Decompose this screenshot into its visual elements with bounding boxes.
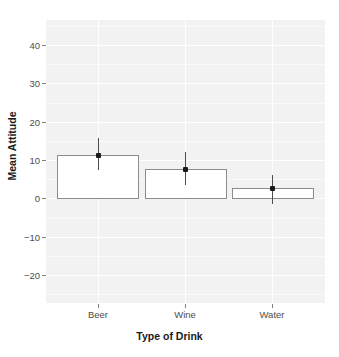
y-tick-label-40: 40 xyxy=(0,40,40,51)
x-axis-title: Type of Drink xyxy=(0,330,339,342)
y-tick-mark-neg10 xyxy=(42,237,46,238)
y-tick-mark-10 xyxy=(42,160,46,161)
y-tick-mark-40 xyxy=(42,45,46,46)
y-tick-mark-20 xyxy=(42,122,46,123)
x-tick-mark-wine xyxy=(185,304,186,308)
x-tick-label-beer: Beer xyxy=(58,309,138,320)
x-tick-mark-beer xyxy=(98,304,99,308)
data-point-beer xyxy=(96,153,101,158)
y-axis-title: Mean Attitude xyxy=(6,86,18,206)
x-tick-label-wine: Wine xyxy=(145,309,225,320)
y-tick-label-neg10: −10 xyxy=(0,232,40,243)
gridline-vertical-water xyxy=(272,20,273,303)
plot-panel xyxy=(46,20,325,303)
y-tick-mark-neg20 xyxy=(42,275,46,276)
x-tick-mark-water xyxy=(272,304,273,308)
bar-chart: 40 30 20 10 0 −10 −20 Beer Wine Water Ty… xyxy=(0,0,339,357)
data-point-water xyxy=(270,186,275,191)
data-point-wine xyxy=(183,167,188,172)
y-tick-mark-0 xyxy=(42,198,46,199)
y-tick-label-neg20: −20 xyxy=(0,270,40,281)
x-tick-label-water: Water xyxy=(232,309,312,320)
bar-wine[interactable] xyxy=(145,169,227,199)
y-tick-mark-30 xyxy=(42,83,46,84)
